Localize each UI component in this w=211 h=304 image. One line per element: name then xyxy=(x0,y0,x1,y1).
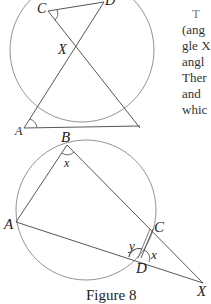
chord-a-to-right xyxy=(24,126,140,128)
circle-bottom xyxy=(16,140,156,280)
figure-bottom: B x A C y x D X Figure 8 xyxy=(3,129,207,303)
line-b-x xyxy=(67,145,203,283)
body-text-column: T (ang gle X angl Ther and whic xyxy=(182,6,211,118)
angle-arc-b xyxy=(62,152,74,155)
angle-arc-c xyxy=(55,10,58,20)
label-a-top: A xyxy=(14,124,23,138)
label-x-top: X xyxy=(57,42,67,57)
body-text-line: angl xyxy=(182,54,211,70)
body-text-line: T xyxy=(182,6,211,22)
circle-top xyxy=(10,0,154,122)
body-text-line: gle X xyxy=(182,38,211,54)
label-x-angle-b: x xyxy=(63,156,70,170)
figure-top: C D X A xyxy=(10,0,154,138)
line-d-to-a xyxy=(24,2,104,128)
label-d-top: D xyxy=(104,0,115,8)
line-a-x xyxy=(16,222,203,283)
label-a-bottom: A xyxy=(3,216,14,232)
angle-arc-a xyxy=(30,119,37,127)
label-y-angle-d: y xyxy=(127,238,135,253)
body-text-line: whic xyxy=(182,102,211,118)
line-c-to-bottom-right xyxy=(48,11,140,128)
label-x-angle-d: x xyxy=(150,247,157,262)
body-text-line: Ther xyxy=(182,70,211,86)
label-c-bottom: C xyxy=(154,219,165,235)
label-d-bottom: D xyxy=(135,260,147,276)
label-c-top: C xyxy=(37,1,47,16)
line-b-a xyxy=(16,145,67,222)
body-text-line: (ang xyxy=(182,22,211,38)
label-x-point: X xyxy=(196,283,207,299)
geometry-figures: C D X A B x A C y x D X Figure 8 xyxy=(0,0,211,304)
chord-cd xyxy=(48,2,104,11)
figure-caption: Figure 8 xyxy=(86,287,136,303)
body-text-line: and xyxy=(182,86,211,102)
label-b: B xyxy=(61,129,70,145)
